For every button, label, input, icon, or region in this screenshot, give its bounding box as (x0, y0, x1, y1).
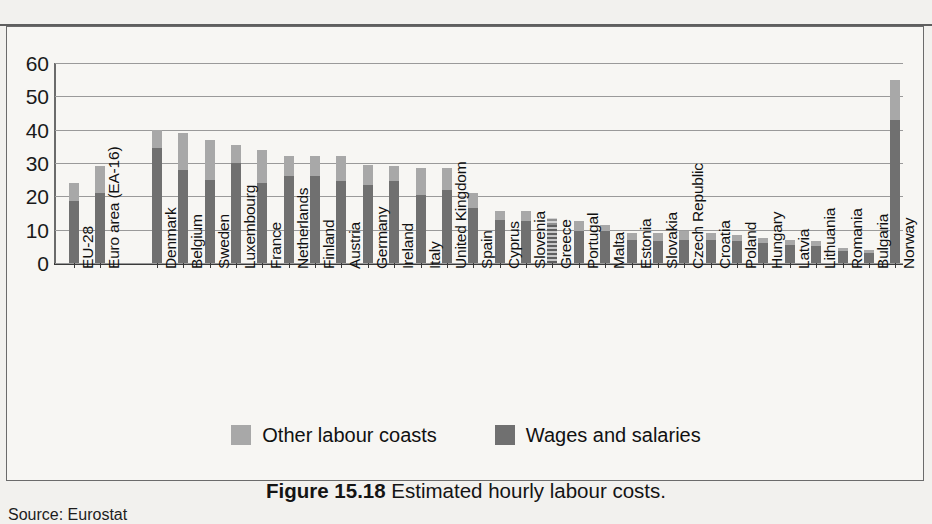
x-axis-tick (658, 263, 659, 268)
legend-swatch-wages-and-salaries (495, 425, 515, 445)
bar-segment-other (758, 238, 768, 243)
bar-segment-wages (547, 225, 557, 263)
x-axis-label-sweden: Sweden (216, 214, 232, 269)
x-axis-tick (183, 263, 184, 268)
x-axis-tick (157, 263, 158, 268)
x-axis-tick (210, 263, 211, 268)
bar-segment-other (785, 240, 795, 245)
x-axis-tick (394, 263, 395, 268)
x-axis-label-poland: Poland (743, 222, 759, 269)
bar-segment-other (864, 250, 874, 253)
y-axis-tick-label-60: 60 (26, 53, 49, 74)
x-axis-tick (289, 263, 290, 268)
x-axis-tick (869, 263, 870, 268)
figure-frame: 0102030405060 EU-28Euro area (EA-16)Denm… (6, 26, 924, 481)
bar-segment-wages (600, 231, 610, 263)
x-axis-label-hungary: Hungary (769, 212, 785, 269)
x-axis-label-norway: Norway (901, 218, 917, 269)
x-axis-tick (447, 263, 448, 268)
y-axis-tick-label-10: 10 (26, 219, 49, 240)
x-axis-label-italy: Italy (427, 242, 443, 269)
legend-label-other-labour-costs: Other labour coasts (262, 425, 437, 445)
y-axis-tick-label-0: 0 (37, 253, 49, 274)
x-axis-tick (605, 263, 606, 268)
x-axis-tick (684, 263, 685, 268)
y-axis-tick-label-30: 30 (26, 153, 49, 174)
y-axis-tick-label-40: 40 (26, 119, 49, 140)
bar-segment-wages (521, 221, 531, 263)
x-axis-label-lithuania: Lithuania (822, 208, 838, 269)
bar-segment-wages (706, 240, 716, 263)
x-axis-label-bulgaria: Bulgaria (875, 214, 891, 269)
bar-segment-wages (864, 253, 874, 263)
x-axis-label-estonia: Estonia (638, 219, 654, 269)
x-axis-label-croatia: Croatia (717, 220, 733, 269)
bar-segment-wages (653, 241, 663, 263)
x-axis-label-malta: Malta (611, 232, 627, 269)
bar-segment-wages (574, 231, 584, 263)
bar-segment-other (679, 231, 689, 239)
bar-segment-wages (679, 240, 689, 263)
x-axis-label-germany: Germany (374, 207, 390, 269)
x-axis-label-luxembourg: Luxembourg (242, 185, 258, 269)
x-axis-label-slovenia: Slovenia (532, 211, 548, 269)
bar-segment-wages (758, 243, 768, 263)
bar-segment-wages (838, 251, 848, 263)
x-axis-label-eu-28: EU-28 (80, 226, 96, 269)
bar-segment-wages (627, 240, 637, 263)
x-axis-label-portugal: Portugal (585, 213, 601, 269)
x-axis-tick (368, 263, 369, 268)
x-axis-tick (100, 263, 101, 268)
x-axis-label-united-kingdom: United Kingdom (453, 162, 469, 270)
y-axis-tick-label-20: 20 (26, 186, 49, 207)
y-axis-tick-label-50: 50 (26, 86, 49, 107)
x-axis-tick (895, 263, 896, 268)
bar-segment-other (732, 235, 742, 242)
x-axis-tick (74, 263, 75, 268)
figure-number: Figure 15.18 (266, 479, 386, 502)
figure-caption: Figure 15.18 Estimated hourly labour cos… (0, 479, 932, 503)
x-axis-tick (421, 263, 422, 268)
x-axis-tick (843, 263, 844, 268)
x-axis-tick (579, 263, 580, 268)
x-axis-label-latvia: Latvia (796, 229, 812, 269)
x-axis-label-finland: Finland (321, 220, 337, 269)
x-axis-tick (341, 263, 342, 268)
legend-swatch-other-labour-costs (231, 425, 251, 445)
figure-source: Source: Eurostat (8, 506, 127, 524)
x-axis-label-czech-republic: Czech Republic (690, 163, 706, 269)
x-axis-tick (473, 263, 474, 268)
bar-segment-wages (811, 246, 821, 263)
x-axis-label-belgium: Belgium (189, 214, 205, 269)
bar-segment-other (838, 248, 848, 251)
x-axis-label-greece: Greece (558, 219, 574, 269)
legend-item-wages-and-salaries: Wages and salaries (495, 425, 701, 445)
category-labels: EU-28Euro area (EA-16)DenmarkBelgiumSwed… (55, 27, 903, 227)
x-axis-label-spain: Spain (479, 230, 495, 269)
x-axis-tick (236, 263, 237, 268)
x-axis-tick (526, 263, 527, 268)
x-axis-tick (552, 263, 553, 268)
x-axis-tick (632, 263, 633, 268)
legend-item-other-labour-costs: Other labour coasts (231, 425, 437, 445)
bar-segment-other (653, 233, 663, 241)
bar-segment-other (811, 241, 821, 246)
x-axis-label-euro-area-ea-16: Euro area (EA-16) (106, 147, 122, 269)
x-axis-label-france: France (268, 222, 284, 269)
bar-segment-other (627, 233, 637, 240)
x-axis-label-austria: Austria (347, 222, 363, 269)
bar-segment-other (706, 233, 716, 240)
x-axis-tick (500, 263, 501, 268)
x-axis-label-denmark: Denmark (163, 208, 179, 269)
x-axis-tick (816, 263, 817, 268)
bar-segment-wages (785, 245, 795, 263)
chart-plot-area: 0102030405060 EU-28Euro area (EA-16)Denm… (7, 27, 925, 482)
chart-legend: Other labour coasts Wages and salaries (7, 425, 925, 445)
figure-caption-text: Estimated hourly labour costs. (391, 479, 666, 502)
x-axis-label-netherlands: Netherlands (295, 188, 311, 269)
x-axis-label-slovakia: Slovakia (664, 212, 680, 269)
x-axis-tick (763, 263, 764, 268)
legend-label-wages-and-salaries: Wages and salaries (526, 425, 701, 445)
x-axis-tick (315, 263, 316, 268)
x-axis-tick (737, 263, 738, 268)
